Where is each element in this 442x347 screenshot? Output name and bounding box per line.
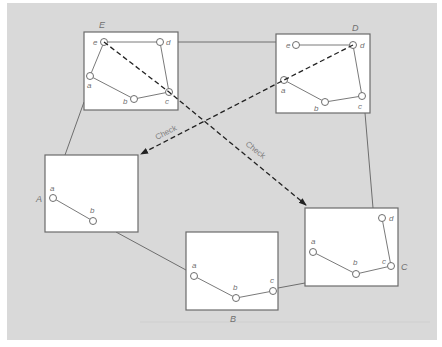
node-label-a: a (281, 86, 286, 95)
box-A-label: A (35, 194, 42, 204)
node-e (293, 42, 300, 49)
node-b (131, 96, 138, 103)
node-label-e: e (93, 38, 98, 47)
node-label-b: b (314, 104, 319, 113)
node-label-e: e (286, 41, 291, 50)
box-B-label: B (230, 314, 236, 324)
box-E-label: E (99, 20, 106, 30)
node-d (157, 39, 164, 46)
node-b (233, 295, 240, 302)
node-label-b: b (353, 258, 358, 267)
box-B: B a b c (186, 232, 278, 324)
node-c (388, 263, 395, 270)
box-B-frame (186, 232, 278, 310)
box-D: D e d a b c (276, 23, 370, 113)
box-E: E e d a b c (84, 20, 178, 110)
node-a (87, 73, 94, 80)
node-c (270, 288, 277, 295)
node-label-a: a (87, 81, 92, 90)
node-label-a: a (311, 237, 316, 246)
node-label-a: a (50, 184, 55, 193)
box-C: C a b c d (305, 208, 408, 286)
node-label-a: a (192, 261, 197, 270)
node-label-b: b (233, 283, 238, 292)
node-label-c: c (165, 97, 169, 106)
node-c (359, 93, 366, 100)
node-b (322, 99, 329, 106)
node-a (50, 195, 57, 202)
node-label-d: d (389, 214, 394, 223)
diagram-canvas: E e d a b c D e d a b c A (0, 0, 442, 347)
node-label-d: d (360, 41, 365, 50)
node-b (90, 218, 97, 225)
node-a (281, 77, 288, 84)
node-d (379, 215, 386, 222)
node-label-d: d (166, 38, 171, 47)
node-label-b: b (123, 97, 128, 106)
box-C-label: C (401, 262, 408, 272)
node-a (191, 273, 198, 280)
box-D-label: D (352, 23, 359, 33)
node-b (353, 271, 360, 278)
box-A: A a b (35, 155, 138, 232)
node-label-c: c (382, 257, 386, 266)
node-a (310, 249, 317, 256)
node-label-c: c (358, 102, 362, 111)
node-label-c: c (270, 276, 274, 285)
node-label-b: b (90, 206, 95, 215)
